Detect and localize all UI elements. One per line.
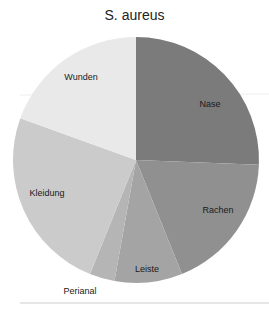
pie-chart: NaseRachenLeistePerianalKleidungWunden [0,0,269,311]
slice-label-leiste: Leiste [135,264,159,274]
pie-slice-nase [136,37,259,165]
slice-label-rachen: Rachen [202,205,233,215]
slice-label-nase: Nase [199,99,220,109]
slice-label-kleidung: Kleidung [29,188,64,198]
slice-label-wunden: Wunden [64,72,97,82]
slice-label-perianal: Perianal [63,286,96,296]
